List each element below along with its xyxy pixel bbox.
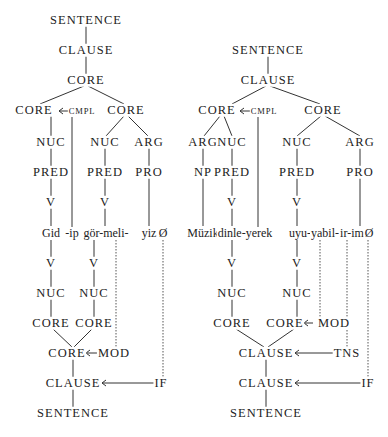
right-cmpl-label: CMPL (250, 107, 278, 116)
left-sentence-bottom-node: SENTENCE (36, 407, 110, 420)
left-core-join-node: CORE (47, 347, 86, 360)
right-core-a-node: CORE (197, 104, 236, 117)
right-sentence-top-node: SENTENCE (231, 44, 305, 57)
left-v-a-low-node: V (45, 257, 57, 270)
left-pred-a-node: PRED (32, 166, 70, 179)
right-arg-a-node: ARG (187, 136, 218, 149)
right-word-uyu: uyu- (288, 227, 312, 239)
left-word-gid: Gid (41, 227, 61, 239)
left-core-top-node: CORE (66, 74, 105, 87)
left-core-b-low-node: CORE (74, 317, 113, 330)
left-core-a-low-node: CORE (31, 317, 70, 330)
right-nuc-b-low-node: NUC (281, 287, 312, 300)
left-word-gor-meli: gör-meli- (82, 227, 129, 239)
left-nuc-a-low-node: NUC (35, 287, 66, 300)
left-nuc-b-low-node: NUC (78, 287, 109, 300)
rrg-diagram: SENTENCE CLAUSE CORE CORE CMPL CORE NUC … (0, 0, 388, 437)
right-word-yabil: yabil- (310, 227, 340, 239)
left-core-b-node: CORE (106, 104, 145, 117)
right-clause-top-node: CLAUSE (240, 74, 297, 87)
right-nuc-a-low-node: NUC (216, 287, 247, 300)
right-nuc-a-node: NUC (216, 136, 247, 149)
right-v-a-node: V (226, 196, 238, 209)
right-core-b-low-node: CORE (265, 317, 304, 330)
left-pred-b-node: PRED (86, 166, 124, 179)
right-mod-operator: MOD (317, 317, 351, 330)
left-word-yiz: yiz (141, 227, 158, 239)
left-nuc-b-node: NUC (89, 136, 120, 149)
right-pred-a-node: PRED (213, 166, 251, 179)
left-clause-top-node: CLAUSE (58, 44, 115, 57)
right-core-a-low-node: CORE (212, 317, 251, 330)
left-if-operator: IF (153, 377, 168, 390)
right-pro-b-node: PRO (345, 166, 374, 179)
right-word-ir-im: ir-im (339, 227, 365, 239)
left-arg-b-node: ARG (133, 136, 164, 149)
left-core-a-node: CORE (14, 104, 53, 117)
right-word-dinle-yerek: dinle-yerek (217, 227, 274, 239)
right-sentence-bottom-node: SENTENCE (229, 407, 303, 420)
left-cmpl-label: CMPL (68, 107, 96, 116)
right-nuc-b-node: NUC (281, 136, 312, 149)
left-pro-b-node: PRO (134, 166, 163, 179)
left-v-b-node: V (99, 196, 111, 209)
right-word-muzik: Müzik (186, 227, 219, 239)
left-word-ip: -ip (64, 227, 79, 239)
right-arg-b-node: ARG (344, 136, 375, 149)
right-core-b-node: CORE (303, 104, 342, 117)
right-clause-join-node: CLAUSE (238, 347, 295, 360)
right-clause-bottom-node: CLAUSE (238, 377, 295, 390)
left-mod-operator: MOD (97, 347, 131, 360)
right-v-a-low-node: V (226, 257, 238, 270)
left-v-b-low-node: V (88, 257, 100, 270)
right-pred-b-node: PRED (278, 166, 316, 179)
left-sentence-top-node: SENTENCE (49, 14, 123, 27)
right-tns-operator: TNS (333, 347, 362, 360)
left-clause-bottom-node: CLAUSE (45, 377, 102, 390)
right-v-b-node: V (291, 196, 303, 209)
left-word-null: Ø (158, 227, 169, 239)
tree-lines (0, 0, 388, 437)
right-v-b-low-node: V (291, 257, 303, 270)
left-v-a-node: V (45, 196, 57, 209)
right-word-null: Ø (364, 227, 375, 239)
right-if-operator: IF (360, 377, 375, 390)
left-nuc-a-node: NUC (35, 136, 66, 149)
right-np-a-node: NP (193, 166, 213, 179)
